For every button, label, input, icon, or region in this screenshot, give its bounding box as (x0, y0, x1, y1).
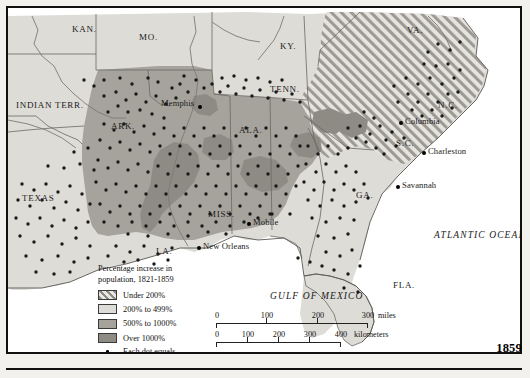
state-label-fla: FLA. (393, 280, 415, 290)
state-label-texas: TEXAS (22, 193, 55, 203)
legend-title-line2: population, 1821-1859 (98, 275, 218, 286)
scale-miles-tick-300: 300 (362, 311, 374, 320)
state-label-va: VA. (407, 25, 423, 35)
state-label-ga: GA. (356, 190, 373, 200)
legend-swatch-200-499 (98, 304, 117, 314)
legend-row-500-1000: 500% to 1000% (98, 318, 218, 330)
scale-km-tick-100: 100 (242, 330, 254, 339)
city-label-new-orleans: New Orleans (203, 241, 249, 251)
state-label-miss: MISS. (208, 209, 235, 219)
scale-miles-tick-200: 200 (312, 311, 324, 320)
scale-km-tick-400: 400 (335, 330, 347, 339)
map-figure: KAN. MO. KY. VA. INDIAN TERR. ARK. TENN.… (0, 0, 530, 378)
legend-row-under-200: Under 200% (98, 289, 218, 301)
city-label-columbia: Columbia (405, 116, 440, 126)
city-label-savannah: Savannah (402, 180, 436, 190)
state-label-indian-terr: INDIAN TERR. (16, 100, 84, 110)
legend-swatch-over-1000 (98, 333, 117, 343)
legend-label-500-1000: 500% to 1000% (123, 319, 176, 328)
scale-miles-tick-0: 0 (215, 311, 219, 320)
legend-row-200-499: 200% to 499% (98, 303, 218, 315)
state-label-kan: KAN. (72, 24, 97, 34)
city-label-memphis: Memphis (161, 98, 194, 108)
state-label-tenn: TENN. (270, 84, 300, 94)
city-dot-charleston (422, 151, 426, 155)
legend-label-under-200: Under 200% (123, 291, 165, 300)
city-dot-new-orleans (197, 246, 201, 250)
city-dot-columbia (399, 121, 403, 125)
ocean-label-gulf: GULF OF MEXICO (270, 291, 364, 301)
map-canvas: KAN. MO. KY. VA. INDIAN TERR. ARK. TENN.… (8, 8, 520, 352)
cotton-dot-layer (8, 8, 520, 352)
city-dot-mobile (247, 222, 251, 226)
scale-km-tick-200: 200 (273, 330, 285, 339)
city-dot-savannah (396, 185, 400, 189)
state-label-sc: S.C. (396, 138, 414, 148)
state-label-la: LA. (156, 246, 172, 256)
state-label-mo: MO. (139, 32, 158, 42)
state-label-ala: ALA. (239, 125, 263, 135)
legend-label-over-1000: Over 1000% (123, 334, 165, 343)
legend-label-200-499: 200% to 499% (123, 305, 172, 314)
bottom-rule (6, 368, 522, 370)
legend-dot-note-line1: Each dot equals (123, 347, 176, 354)
legend-row-over-1000: Over 1000% (98, 332, 218, 344)
legend-row-dot: Each dot equals 1000 bales (98, 347, 218, 354)
map-frame: KAN. MO. KY. VA. INDIAN TERR. ARK. TENN.… (6, 6, 522, 354)
city-label-charleston: Charleston (428, 146, 466, 156)
scale-km-unit: kilometers (354, 330, 389, 339)
scale-miles-tick-100: 100 (261, 311, 273, 320)
state-label-ky: KY. (280, 41, 296, 51)
legend-swatch-under-200 (98, 290, 117, 300)
state-label-ark: ARK. (111, 121, 135, 131)
scale-km-tick-300: 300 (304, 330, 316, 339)
map-year-label: 1859 (496, 341, 522, 356)
city-dot-memphis (198, 105, 202, 109)
scale-miles-unit: miles (378, 311, 396, 320)
legend-title: Percentage increase in population, 1821-… (98, 264, 218, 285)
state-label-nc: N.C. (438, 100, 458, 110)
scale-km-tick-0: 0 (215, 330, 219, 339)
legend-swatch-500-1000 (98, 319, 117, 329)
map-legend: Percentage increase in population, 1821-… (98, 264, 218, 354)
legend-dot-symbol (98, 347, 117, 353)
ocean-label-atlantic: ATLANTIC OCEAN (434, 230, 520, 240)
city-label-mobile: Mobile (253, 217, 278, 227)
legend-title-line1: Percentage increase in (98, 264, 218, 275)
